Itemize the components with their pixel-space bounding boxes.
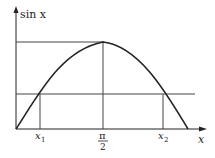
x2-subscript: 2 (164, 136, 168, 144)
pi-numerator: π (99, 130, 106, 141)
x-axis-arrow-icon (199, 127, 207, 132)
sine-curve-diagram: sin x x x 1 π 2 x 2 (0, 0, 215, 158)
y-axis-arrow-icon (14, 6, 19, 13)
x1-subscript: 1 (41, 136, 45, 144)
pi-denominator: 2 (100, 142, 106, 152)
sine-curve (16, 42, 188, 129)
x-axis-label: x (198, 133, 205, 146)
y-axis-label: sin x (20, 8, 47, 21)
